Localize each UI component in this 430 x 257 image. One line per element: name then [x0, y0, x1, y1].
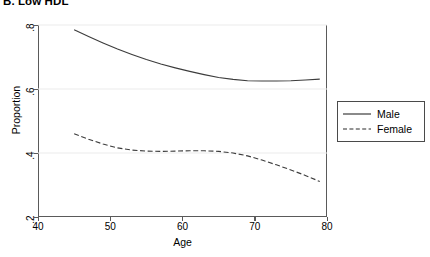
y-tick-label: .8: [25, 24, 36, 50]
x-tick-label: 80: [312, 221, 342, 232]
legend-item-male[interactable]: Male: [342, 106, 421, 121]
page-title: B. Low HDL: [3, 0, 69, 7]
x-tick-label: 40: [23, 221, 53, 232]
legend-item-female[interactable]: Female: [342, 121, 421, 136]
y-tick-mark: [34, 89, 38, 90]
x-tick-mark: [327, 217, 328, 221]
legend-label: Female: [372, 123, 412, 135]
series-lines: [74, 30, 320, 182]
x-tick-label: 70: [240, 221, 270, 232]
legend-swatch-solid: [342, 109, 372, 119]
chart-figure: B. Low HDL .2.4.6.8 4050607080 Proportio…: [0, 0, 430, 257]
y-tick-label: .4: [25, 152, 36, 178]
y-axis-label: Proportion: [10, 70, 22, 150]
gridlines: [38, 25, 327, 153]
y-tick-mark: [34, 25, 38, 26]
y-tick-mark: [34, 153, 38, 154]
x-tick-mark: [38, 217, 39, 221]
x-tick-label: 50: [95, 221, 125, 232]
x-tick-label: 60: [168, 221, 198, 232]
x-tick-mark: [254, 217, 255, 221]
series-line-male: [74, 30, 320, 81]
x-tick-mark: [182, 217, 183, 221]
y-tick-label: .6: [25, 88, 36, 114]
x-axis-label: Age: [38, 236, 327, 248]
plot-canvas: [38, 25, 327, 217]
x-tick-mark: [110, 217, 111, 221]
legend-swatch-dashed: [342, 124, 372, 134]
series-line-female: [74, 134, 320, 182]
legend-label: Male: [372, 108, 400, 120]
chart-legend: MaleFemale: [337, 101, 425, 142]
